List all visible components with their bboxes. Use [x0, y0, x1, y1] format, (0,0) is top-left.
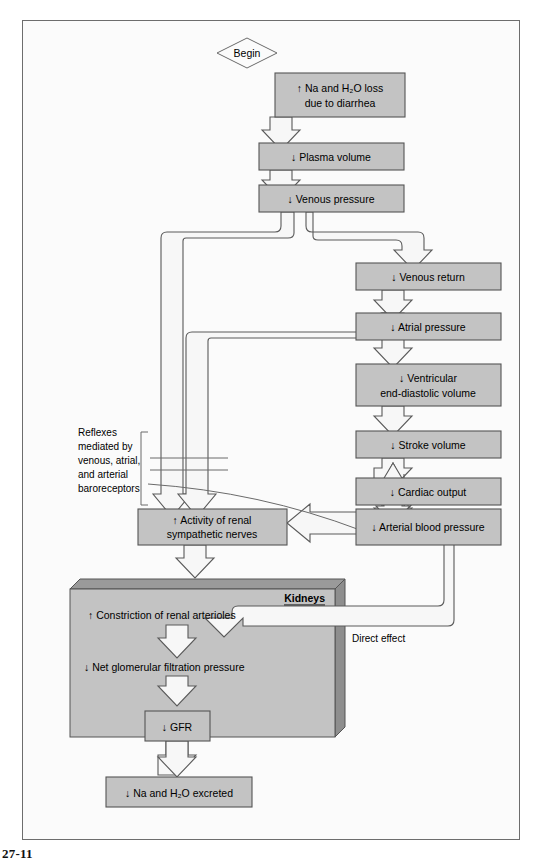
node-excreted: ↓ Na and H₂O excreted — [106, 777, 252, 807]
node-rsn-line1: ↑ Activity of renal — [173, 514, 252, 526]
reflexes-line4: and arterial — [78, 469, 128, 480]
reflexes-line1: Reflexes — [78, 427, 117, 438]
reflexes-line5: baroreceptors — [78, 483, 140, 494]
kidney-constriction-label: ↑ Constriction of renal arterioles — [88, 609, 236, 621]
node-stroke-volume: ↓ Stroke volume — [356, 431, 501, 458]
node-diarrhea-line1: ↑ Na and H₂O loss — [297, 82, 383, 94]
node-ventricular-edv-line2: end-diastolic volume — [380, 387, 476, 399]
direct-effect-label: Direct effect — [352, 633, 405, 644]
reflexes-line2: mediated by — [78, 441, 132, 452]
node-ventricular-edv: ↓ Ventricular end-diastolic volume — [356, 364, 501, 406]
node-arterial-blood-pressure: ↓ Arterial blood pressure — [356, 509, 501, 545]
kidneys-title: Kidneys — [284, 592, 325, 604]
reflexes-line3: venous, atrial, — [78, 455, 140, 466]
node-atrial-pressure-label: ↓ Atrial pressure — [390, 321, 465, 333]
node-arterial-blood-pressure-label: ↓ Arterial blood pressure — [371, 521, 484, 533]
node-atrial-pressure: ↓ Atrial pressure — [356, 313, 501, 340]
node-plasma-volume-label: ↓ Plasma volume — [291, 151, 371, 163]
begin-label: Begin — [234, 47, 261, 59]
node-rsn-line2: sympathetic nerves — [167, 528, 257, 540]
node-ventricular-edv-line1: ↓ Ventricular — [399, 372, 457, 384]
node-diarrhea-line2: due to diarrhea — [305, 97, 376, 109]
kidney-netpressure-label: ↓ Net glomerular filtration pressure — [84, 661, 245, 673]
node-cardiac-output-label: ↓ Cardiac output — [390, 486, 467, 498]
node-venous-pressure-label: ↓ Venous pressure — [288, 193, 375, 205]
kidney-item-constriction: ↑ Constriction of renal arterioles — [88, 609, 236, 621]
annotation-reflexes: Reflexes mediated by venous, atrial, and… — [78, 427, 140, 494]
kidney-item-net-pressure: ↓ Net glomerular filtration pressure — [84, 661, 245, 673]
node-diarrhea: ↑ Na and H₂O loss due to diarrhea — [275, 73, 405, 117]
begin-node: Begin — [217, 38, 277, 68]
node-venous-return: ↓ Venous return — [356, 263, 501, 290]
node-plasma-volume: ↓ Plasma volume — [259, 143, 404, 170]
node-venous-return-label: ↓ Venous return — [391, 271, 465, 283]
annotation-direct-effect: Direct effect — [352, 633, 405, 644]
node-stroke-volume-label: ↓ Stroke volume — [390, 439, 465, 451]
flowchart-svg: .nb { fill:#c3c3c3; stroke:#555; stroke-… — [0, 0, 547, 860]
figure-caption: 27-11 — [2, 846, 33, 860]
node-venous-pressure: ↓ Venous pressure — [259, 185, 404, 212]
figure-canvas: .nb { fill:#c3c3c3; stroke:#555; stroke-… — [0, 0, 547, 860]
node-cardiac-output: ↓ Cardiac output — [356, 478, 501, 505]
node-renal-sympathetic-nerves: ↑ Activity of renal sympathetic nerves — [138, 509, 287, 545]
node-excreted-label: ↓ Na and H₂O excreted — [125, 787, 233, 799]
reflexes-bracket — [141, 432, 148, 505]
node-gfr-label: ↓ GFR — [162, 721, 193, 733]
node-gfr: ↓ GFR — [145, 711, 210, 741]
